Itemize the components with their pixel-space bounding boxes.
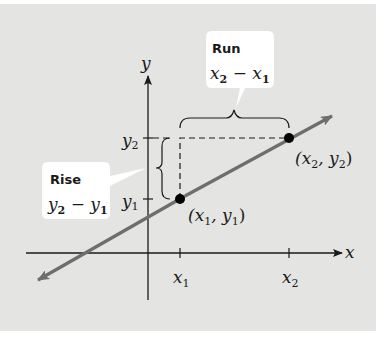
y1-tick-label: y1	[121, 191, 139, 213]
x-axis-label: x	[345, 242, 355, 262]
run-callout: Run x2 − x1	[206, 31, 274, 108]
y2-tick-label: y2	[121, 130, 139, 152]
point-2-label: (x2, y2)	[295, 148, 352, 171]
point-1-marker	[175, 194, 185, 204]
slope-diagram: x y x1 x2 y2 y1 (x1, y1) (x2, y2) Run x2…	[0, 0, 389, 337]
point-2-marker	[284, 133, 294, 143]
y-axis-label: y	[140, 53, 151, 73]
rise-expression: y2 − y1	[47, 194, 108, 217]
run-brace	[180, 110, 289, 128]
x2-tick-label: x2	[282, 267, 299, 290]
run-expression: x2 − x1	[210, 63, 270, 86]
rise-brace	[156, 138, 170, 199]
x1-tick-label: x1	[173, 267, 190, 290]
point-1-label: (x1, y1)	[188, 205, 245, 228]
rise-title: Rise	[50, 172, 81, 187]
run-title: Run	[212, 41, 241, 56]
